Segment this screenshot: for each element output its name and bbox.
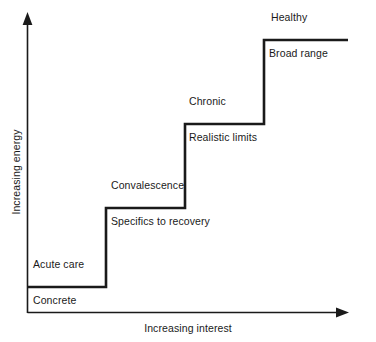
step-2-detail-label: Specifics to recovery xyxy=(111,216,210,228)
x-axis xyxy=(28,308,350,318)
step-3-detail-label: Realistic limits xyxy=(189,132,257,144)
y-axis-title: Increasing energy xyxy=(10,112,22,232)
staircase-step-line xyxy=(27,40,348,287)
staircase-diagram: Increasing energy Increasing interest Ac… xyxy=(0,0,376,342)
y-axis xyxy=(23,12,33,313)
step-4-detail-label: Broad range xyxy=(269,48,328,60)
step-2-stage-label: Convalescence xyxy=(111,180,184,192)
step-1-detail-label: Concrete xyxy=(33,295,76,307)
x-axis-title: Increasing interest xyxy=(0,322,376,334)
y-axis-arrowhead xyxy=(23,12,33,25)
step-4-stage-label: Healthy xyxy=(271,12,307,24)
x-axis-arrowhead xyxy=(336,308,349,318)
step-3-stage-label: Chronic xyxy=(189,96,226,108)
step-1-stage-label: Acute care xyxy=(33,259,84,271)
